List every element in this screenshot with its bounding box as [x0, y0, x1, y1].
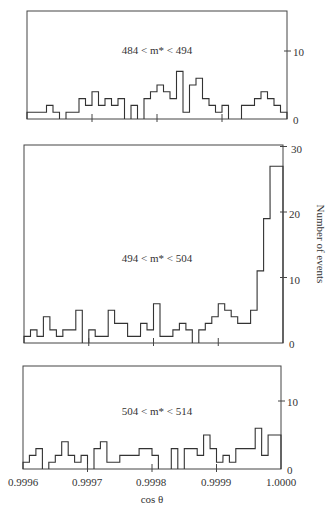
- xtick-0.9997: 0.9997: [72, 476, 103, 488]
- panel-484-494: 484 < m* < 494 10 0: [27, 11, 305, 126]
- panel2-ytick-10: 10: [289, 274, 301, 286]
- xtick-1.0000: 1.0000: [266, 476, 297, 488]
- x-axis-label: cos θ: [141, 493, 164, 505]
- xtick-0.9996: 0.9996: [8, 476, 39, 488]
- y-axis-label: Number of events: [315, 205, 327, 284]
- panel3-histogram: [23, 428, 281, 469]
- panel2-ytick-0: 0: [289, 338, 295, 350]
- panel-494-504: 494 < m* < 504 30 20 10 0 Number of even…: [24, 143, 327, 350]
- panel3-range-label: 504 < m* < 514: [122, 405, 193, 417]
- panel1-range-label: 484 < m* < 494: [122, 44, 193, 56]
- panel1-ytick-10: 10: [293, 46, 305, 58]
- panel1-ytick-0: 0: [293, 114, 299, 126]
- panel-504-514: 504 < m* < 514 10 0 0.9996 0.9997 0.9998…: [8, 366, 299, 505]
- panel2-ytick-30: 30: [291, 143, 303, 155]
- panel3-ytick-10: 10: [287, 396, 299, 408]
- panel2-range-label: 494 < m* < 504: [122, 252, 193, 264]
- panel2-ytick-20: 20: [289, 208, 301, 220]
- panel1-histogram: [27, 71, 287, 119]
- histogram-figure: 484 < m* < 494 10 0 494 < m* < 504 30 20…: [0, 0, 333, 515]
- xtick-0.9998: 0.9998: [136, 476, 167, 488]
- xtick-0.9999: 0.9999: [201, 476, 232, 488]
- panel1-frame: [27, 11, 287, 119]
- panel3-ytick-0: 0: [287, 464, 293, 476]
